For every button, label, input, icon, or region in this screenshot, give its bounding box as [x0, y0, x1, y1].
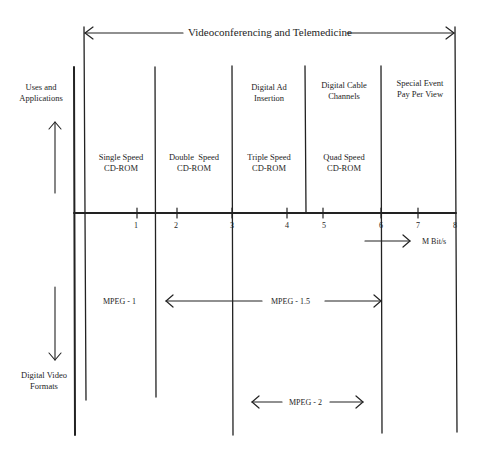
- label-line: Double Speed: [158, 152, 230, 163]
- label-line: Quad Speed: [308, 152, 380, 163]
- divider-line-6: [381, 66, 382, 433]
- label-line: Digital Cable: [308, 80, 380, 91]
- label-line: Channels: [308, 91, 380, 102]
- tick-label: 5: [322, 221, 326, 230]
- label-line: Triple Speed: [235, 152, 303, 163]
- format-mpeg-1-5: MPEG - 1.5: [271, 296, 310, 307]
- label-line: Pay Per View: [384, 89, 456, 100]
- divider-line-1: [155, 67, 156, 397]
- label-line: Single Speed: [88, 152, 154, 163]
- label-line: Special Event: [384, 78, 456, 89]
- unit-label: M Bit/s: [422, 236, 446, 247]
- label-line: Applications: [14, 93, 68, 104]
- digital-video-formats-label: Digital Video Formats: [14, 370, 74, 392]
- tick-label: 3: [230, 221, 234, 230]
- tick-label: 8: [453, 221, 457, 230]
- bitrate-diagram: Videoconferencing and Telemedicine Uses …: [0, 0, 484, 460]
- app-special-event-ppv: Special Event Pay Per View: [384, 78, 456, 100]
- app-digital-ad-insertion: Digital Ad Insertion: [235, 82, 303, 104]
- app-digital-cable-channels: Digital Cable Channels: [308, 80, 380, 102]
- top-span-label: Videoconferencing and Telemedicine: [183, 26, 357, 39]
- tick-label: 2: [174, 221, 178, 230]
- tick-label: 6: [379, 221, 383, 230]
- label-line: Insertion: [235, 93, 303, 104]
- format-mpeg-2: MPEG - 2: [289, 397, 322, 408]
- cdrom-quad-speed: Quad Speed CD-ROM: [308, 152, 380, 174]
- uses-applications-label: Uses and Applications: [14, 82, 68, 104]
- cdrom-triple-speed: Triple Speed CD-ROM: [235, 152, 303, 174]
- tick-label: 7: [416, 221, 420, 230]
- label-line: CD-ROM: [158, 163, 230, 174]
- tick-label: 1: [134, 221, 138, 230]
- cdrom-double-speed: Double Speed CD-ROM: [158, 152, 230, 174]
- format-mpeg-1: MPEG - 1: [103, 296, 136, 307]
- label-line: CD-ROM: [235, 163, 303, 174]
- cdrom-single-speed: Single Speed CD-ROM: [88, 152, 154, 174]
- label-line: Digital Video: [14, 370, 74, 381]
- label-line: CD-ROM: [88, 163, 154, 174]
- label-line: Formats: [14, 381, 74, 392]
- divider-line-4.5: [305, 66, 306, 213]
- divider-line-3: [232, 66, 233, 435]
- label-line: Uses and: [14, 82, 68, 93]
- tick-label: 4: [285, 221, 289, 230]
- label-line: Digital Ad: [235, 82, 303, 93]
- left-axis-line: [74, 67, 75, 435]
- label-line: CD-ROM: [308, 163, 380, 174]
